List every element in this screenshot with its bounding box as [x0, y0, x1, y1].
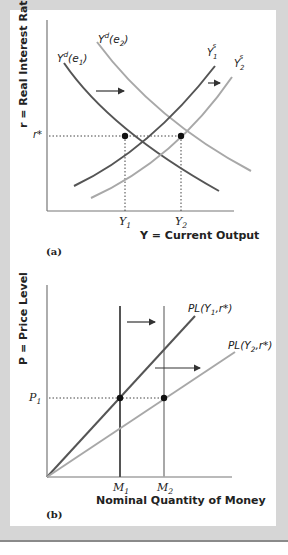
label-yd-e2: Yd(e2): [98, 32, 128, 47]
y-axis-label-b: P = Price Level: [18, 272, 29, 365]
label-y1s: Y1s: [207, 47, 221, 61]
curve-yd-e1: [64, 63, 219, 191]
label-pl-y2: PL(Y2,r*): [228, 340, 272, 353]
tick-y1: Y1: [119, 216, 131, 230]
panel-a-tag: (a): [46, 247, 62, 257]
tick-y2: Y2: [175, 216, 187, 230]
label-yd-e1: Yd(e1): [57, 51, 87, 66]
p1-label: P1: [29, 392, 41, 406]
curve-yd-e2: [97, 42, 251, 171]
x-axis-label-b: Nominal Quantity of Money: [96, 495, 266, 506]
label-pl-y1: PL(Y1,r*): [188, 303, 232, 316]
panel-b-tag: (b): [46, 510, 62, 520]
equilibrium-point-2: [178, 133, 184, 139]
diagram-canvas: [0, 0, 288, 555]
label-y2s: Y2s: [234, 58, 248, 72]
curve-y2s: [91, 77, 232, 198]
equilibrium-point-1: [122, 133, 128, 139]
y-axis-label-a: r = Real Interest Rate: [18, 0, 29, 128]
x-axis-label-a: Y = Current Output: [140, 230, 259, 241]
point-m1-p1: [117, 395, 123, 401]
line-pl-y2: [47, 352, 235, 477]
r-star-label: r*: [33, 130, 42, 140]
point-m2-p1: [161, 395, 167, 401]
